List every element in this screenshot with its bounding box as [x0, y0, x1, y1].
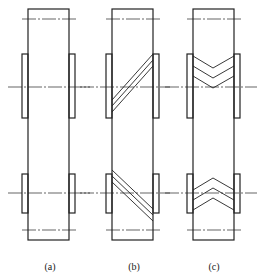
panel-c-label: (c) [208, 261, 219, 273]
upper-herringbone-teeth [193, 56, 234, 88]
gear-body [193, 9, 234, 240]
gear-body [112, 9, 153, 240]
panel-b [80, 9, 170, 240]
upper-helical-teeth [112, 54, 153, 112]
upper-left-sleeve [106, 54, 112, 118]
lower-left-sleeve [106, 174, 112, 213]
upper-left-sleeve [187, 54, 193, 118]
lower-left-sleeve [187, 174, 193, 213]
gear-body [28, 9, 69, 240]
panel-a [8, 9, 90, 240]
upper-right-sleeve [234, 54, 240, 118]
panel-b-label: (b) [128, 261, 140, 273]
upper-left-sleeve [22, 54, 28, 118]
lower-right-sleeve [69, 174, 75, 213]
upper-right-sleeve [153, 54, 159, 118]
lower-right-sleeve [153, 174, 159, 213]
gear-tooth-diagram: (a) (b) (c) [0, 0, 257, 280]
panel-a-label: (a) [44, 261, 55, 273]
upper-right-sleeve [69, 54, 75, 118]
panel-c [165, 9, 257, 240]
lower-herringbone-teeth [193, 178, 234, 210]
lower-right-sleeve [234, 174, 240, 213]
lower-left-sleeve [22, 174, 28, 213]
lower-helical-teeth [112, 170, 153, 221]
